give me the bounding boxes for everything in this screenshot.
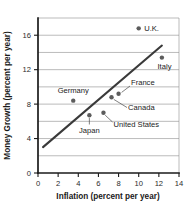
point-label-italy: Italy bbox=[158, 62, 172, 71]
datapoint-united-states bbox=[101, 111, 105, 115]
y-tick-label-0: 0 bbox=[27, 169, 31, 178]
point-label-canada: Canada bbox=[128, 103, 155, 112]
point-label-france: France bbox=[131, 78, 155, 87]
datapoint-germany bbox=[71, 98, 75, 102]
y-tick-label-8: 8 bbox=[27, 100, 31, 109]
y-tick-label-16: 16 bbox=[23, 31, 31, 40]
x-tick-label-12: 12 bbox=[155, 179, 163, 188]
x-tick-label-6: 6 bbox=[96, 179, 100, 188]
datapoint-japan bbox=[87, 113, 91, 117]
y-axis-title: Money Growth (percent per year) bbox=[3, 31, 12, 160]
y-tick-label-12: 12 bbox=[23, 65, 31, 74]
point-label-japan: Japan bbox=[79, 126, 100, 135]
x-tick-label-10: 10 bbox=[134, 179, 142, 188]
datapoint-uk bbox=[137, 26, 141, 30]
point-label-united-states: United States bbox=[114, 120, 160, 129]
x-axis-title: Inflation (percent per year) bbox=[56, 192, 160, 201]
x-tick-label-2: 2 bbox=[56, 179, 60, 188]
x-tick-label-4: 4 bbox=[76, 179, 80, 188]
x-tick-label-14: 14 bbox=[175, 179, 183, 188]
point-label-germany: Germany bbox=[58, 86, 89, 95]
x-tick-label-8: 8 bbox=[116, 179, 120, 188]
point-label-uk: U.K. bbox=[144, 24, 159, 33]
y-tick-label-4: 4 bbox=[27, 134, 31, 143]
datapoint-canada bbox=[109, 95, 113, 99]
datapoint-italy bbox=[160, 55, 164, 59]
chart-page: 0 4 8 12 16 0 2 4 6 8 10 12 14 Inflation… bbox=[0, 0, 189, 215]
plot-area-background bbox=[38, 18, 179, 173]
x-tick-label-0: 0 bbox=[36, 179, 40, 188]
scatter-chart: 0 4 8 12 16 0 2 4 6 8 10 12 14 Inflation… bbox=[0, 0, 189, 215]
datapoint-france bbox=[116, 92, 120, 96]
